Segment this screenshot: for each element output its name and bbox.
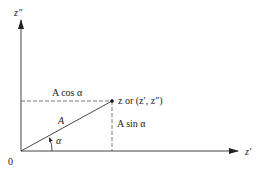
vector-line <box>21 101 112 151</box>
origin-label: 0 <box>8 156 13 167</box>
angle-arc <box>50 138 53 151</box>
vertical-projection-label: A sin α <box>117 118 146 129</box>
point-z <box>110 99 114 103</box>
complex-plane-diagram: z″ z′ 0 A cos α A sin α A α z or (z′, z″… <box>0 0 269 172</box>
angle-label: α <box>56 135 62 146</box>
horizontal-axis-label: z′ <box>244 146 252 157</box>
magnitude-label: A <box>57 115 65 126</box>
horizontal-projection-label: A cos α <box>52 87 83 98</box>
point-label: z or (z′, z″) <box>118 95 163 107</box>
vertical-axis-label: z″ <box>13 7 23 18</box>
